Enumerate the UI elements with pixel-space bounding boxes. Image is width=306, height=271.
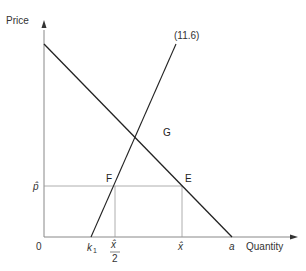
x-hat-label: x̂: [177, 241, 184, 252]
p-hat-label: p̂: [32, 181, 39, 192]
demand-line: [44, 44, 232, 237]
point-e-label: E: [185, 173, 192, 184]
point-g-label: G: [163, 127, 171, 138]
x-hat-half-denominator: 2: [112, 253, 118, 264]
k1-subscript: 1: [93, 247, 97, 254]
supply-line: [91, 44, 176, 237]
origin-label: 0: [36, 241, 42, 252]
y-axis-label: Price: [6, 15, 29, 26]
x-hat-half-numerator: x̂: [110, 239, 117, 250]
point-f-label: F: [106, 173, 112, 184]
supply-curve-label: (11.6): [174, 30, 199, 41]
a-label: a: [229, 241, 235, 252]
economics-diagram: Price Quantity 0 (11.6) G F E p̂ k 1 x̂ …: [0, 0, 306, 271]
x-axis-arrow-icon: [290, 235, 298, 240]
x-axis-label: Quantity: [246, 241, 283, 252]
y-axis-arrow-icon: [42, 20, 47, 28]
